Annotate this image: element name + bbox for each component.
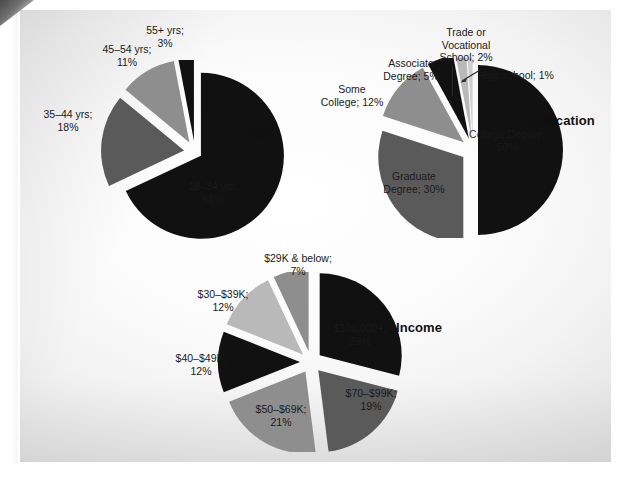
education-label-highschool: High school; 1% <box>478 69 554 82</box>
page-right-margin <box>611 0 625 478</box>
education-label-some-college: Some College; 12% <box>310 83 394 108</box>
income-label-100k-plus: $100,000+; 29% <box>318 322 402 347</box>
age-title: Age <box>246 124 271 139</box>
income-label-29k-below: $29K & below; 7% <box>244 252 352 277</box>
income-label-50-69k: $50–$69K; 21% <box>235 403 327 428</box>
education-title: Education <box>531 113 595 128</box>
age-label-55plus: 55+ yrs; 3% <box>130 24 200 49</box>
education-label-college: College Degree; 50% <box>452 128 562 153</box>
education-label-associate: Associate Degree; 5% <box>367 57 455 82</box>
age-label-18-34: 18–34 yrs; 68% <box>168 180 258 205</box>
age-pie <box>100 60 290 240</box>
education-label-graduate: Graduate Degree; 30% <box>366 170 462 195</box>
age-label-35-44: 35–44 yrs; 18% <box>24 108 112 133</box>
age-pie-svg <box>100 60 290 240</box>
income-label-40-49k: $40–$49K; 12% <box>157 352 245 377</box>
page-bottom-margin <box>0 464 625 478</box>
page-left-margin <box>0 0 18 478</box>
income-label-70-99k: $70–$99K; 19% <box>325 387 417 412</box>
income-label-30-39k: $30–$39K; 12% <box>180 288 266 313</box>
scanned-page: Age 45–54 yrs; 11% 55+ yrs; 3% 35–44 yrs… <box>0 0 625 478</box>
education-leader-highschool <box>456 68 482 84</box>
income-title: Income <box>396 320 442 335</box>
